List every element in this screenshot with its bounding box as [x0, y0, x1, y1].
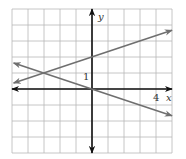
x-tick-label: 4 — [153, 92, 159, 103]
x-axis-label: x — [166, 92, 172, 103]
y-axis-label: y — [97, 11, 104, 22]
coordinate-plane: y x 4 1 — [0, 0, 186, 159]
y-tick-label: 1 — [83, 71, 89, 82]
